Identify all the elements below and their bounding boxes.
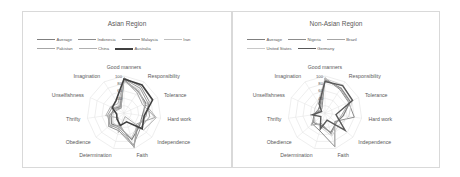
axis-label: Unselfishness [253, 92, 286, 98]
axis-label: Hard work [369, 116, 393, 122]
axis-label: Obedience [267, 139, 292, 145]
tick-label: 100 [115, 74, 123, 79]
axis-label: Determination [280, 152, 312, 158]
axis-label: Thrifty [267, 116, 282, 122]
chart-non-asian-region: Non-Asian Region AverageNigeriaBrazilUni… [232, 11, 440, 168]
axis-label: Responsibility [148, 73, 180, 79]
axis-label: Determination [79, 152, 111, 158]
axis-label: Tolerance [365, 92, 388, 98]
tick-label: 80 [117, 81, 122, 86]
axis-label: Obedience [66, 139, 91, 145]
tick-label: 80 [318, 81, 323, 86]
axis-label: Hard work [168, 116, 192, 122]
radar-plot: 100806040Good mannersResponsibilityToler… [233, 12, 441, 169]
axis-label: Thrifty [66, 116, 81, 122]
chart-asian-region: Asian Region AverageIndonesiaMalaysiaIra… [22, 11, 232, 168]
axis-label: Imagination [73, 73, 100, 79]
axis-label: Good manners [308, 64, 343, 70]
axis-label: Responsibility [349, 73, 381, 79]
axis-label: Faith [337, 152, 349, 158]
tick-label: 40 [318, 96, 323, 101]
axis-label: Good manners [107, 64, 142, 70]
tick-label: 100 [316, 74, 324, 79]
axis-label: Faith [136, 152, 148, 158]
axis-label: Independence [358, 139, 391, 145]
axis-label: Unselfishness [52, 92, 85, 98]
axis-label: Imagination [274, 73, 301, 79]
axis-label: Independence [157, 139, 190, 145]
axis-label: Tolerance [164, 92, 187, 98]
tick-label: 60 [318, 88, 323, 93]
tick-label: 60 [117, 88, 122, 93]
radar-plot: 100806040Good mannersResponsibilityToler… [23, 12, 233, 169]
tick-label: 40 [117, 96, 122, 101]
